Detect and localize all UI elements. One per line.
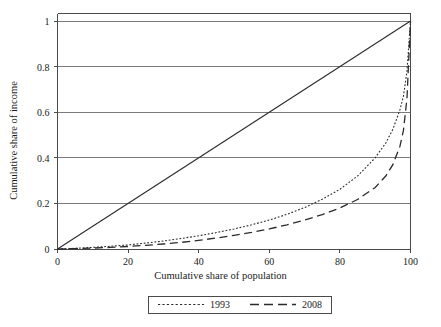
plot-frame bbox=[58, 14, 411, 250]
legend-label-2008: 2008 bbox=[302, 299, 322, 310]
x-tick-label: 80 bbox=[335, 256, 345, 267]
series-line-equality-line bbox=[58, 21, 411, 249]
data-series bbox=[58, 21, 411, 249]
x-tick-label: 60 bbox=[264, 256, 274, 267]
x-tick-label: 100 bbox=[403, 256, 418, 267]
y-axis-title: Cumulative share of income bbox=[8, 66, 19, 216]
x-tick-label: 20 bbox=[123, 256, 133, 267]
legend-swatch-dotted bbox=[158, 300, 204, 309]
lorenz-curve-figure: 00.20.40.60.81 020406080100 Cumulative s… bbox=[0, 0, 441, 327]
legend-entry-2008[interactable]: 2008 bbox=[250, 299, 322, 310]
y-tick-label: 0 bbox=[0, 244, 50, 255]
x-tick-label: 40 bbox=[194, 256, 204, 267]
legend-entry-1993[interactable]: 1993 bbox=[158, 299, 230, 310]
legend-swatch-dashed bbox=[250, 300, 296, 309]
chart-legend: 1993 2008 bbox=[148, 296, 332, 314]
x-axis-title: Cumulative share of population bbox=[0, 270, 441, 281]
x-tick-label: 0 bbox=[55, 256, 60, 267]
y-tick-label: 1 bbox=[0, 16, 50, 27]
legend-label-1993: 1993 bbox=[210, 299, 230, 310]
